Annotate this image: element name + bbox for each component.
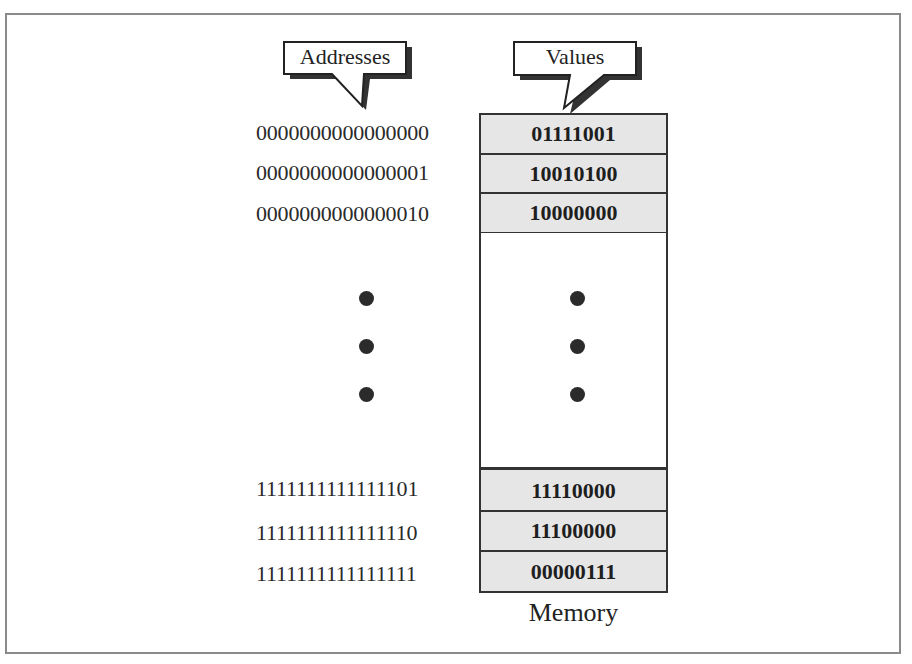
ellipsis-dot-icon: [570, 339, 585, 354]
address-2: 0000000000000010: [256, 201, 466, 227]
address-0: 0000000000000000: [256, 120, 466, 146]
addresses-label: Addresses: [284, 44, 406, 70]
memory-cell-n-3: 11110000: [479, 467, 668, 512]
address-n-2: 1111111111111110: [256, 520, 466, 546]
ellipsis-dot-icon: [359, 339, 374, 354]
memory-cell-n-2: 11100000: [479, 510, 668, 552]
ellipsis-dot-icon: [359, 387, 374, 402]
address-n-3: 1111111111111101: [256, 476, 466, 502]
memory-cell-0: 01111001: [479, 113, 668, 155]
memory-cell-2: 10000000: [479, 192, 668, 234]
values-label: Values: [514, 44, 636, 70]
address-n-1: 1111111111111111: [256, 561, 466, 587]
figure-frame: [5, 13, 901, 654]
ellipsis-dot-icon: [570, 291, 585, 306]
memory-caption: Memory: [479, 598, 668, 628]
ellipsis-dot-icon: [359, 291, 374, 306]
ellipsis-dot-icon: [570, 387, 585, 402]
address-1: 0000000000000001: [256, 160, 466, 186]
memory-cell-1: 10010100: [479, 153, 668, 194]
memory-cell-n-1: 00000111: [479, 550, 668, 593]
